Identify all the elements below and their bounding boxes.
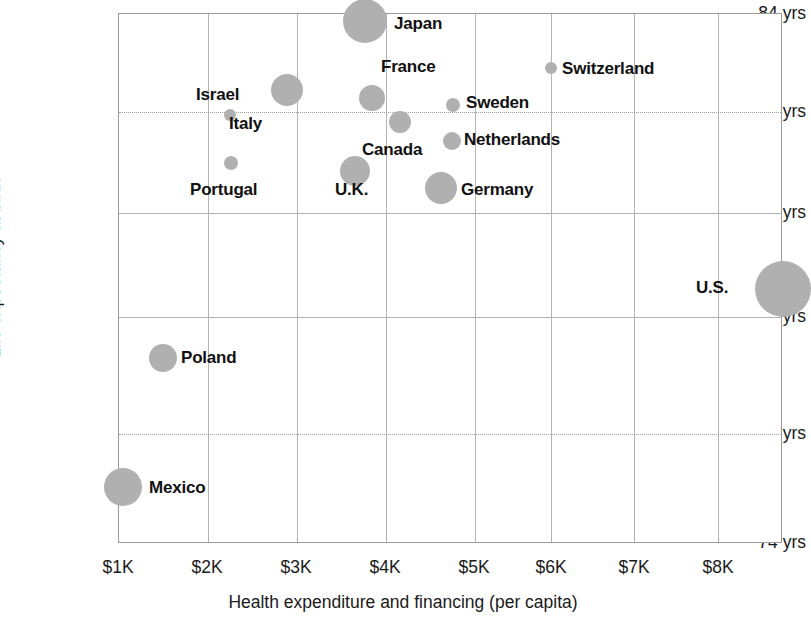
- x-tick-label: $4K: [369, 557, 400, 578]
- x-tick-label: $6K: [535, 557, 566, 578]
- x-tick-label: $3K: [280, 557, 311, 578]
- gridline-horizontal: [119, 317, 781, 318]
- x-tick-label: $8K: [702, 557, 733, 578]
- point-label-germany: Germany: [461, 180, 533, 200]
- x-tick-label: $5K: [458, 557, 489, 578]
- point-label-netherlands: Netherlands: [464, 130, 560, 150]
- bubble-switzerland[interactable]: [545, 62, 557, 74]
- bubble-france[interactable]: [359, 85, 385, 111]
- gridline-horizontal: [119, 434, 781, 435]
- y-axis-title: Life expectancy at birth: [0, 178, 5, 358]
- bubble-germany[interactable]: [425, 172, 457, 204]
- gridline-vertical: [551, 14, 552, 542]
- gridline-vertical: [386, 14, 387, 542]
- bubble-poland[interactable]: [149, 344, 177, 372]
- point-label-portugal: Portugal: [190, 180, 257, 200]
- x-tick-label: $2K: [191, 557, 222, 578]
- point-label-canada: Canada: [362, 140, 422, 160]
- point-label-mexico: Mexico: [149, 478, 205, 498]
- bubble-us[interactable]: [755, 261, 811, 317]
- gridline-horizontal: [119, 112, 781, 113]
- bubble-mexico[interactable]: [104, 468, 142, 506]
- bubble-portugal[interactable]: [224, 156, 238, 170]
- bubble-netherlands[interactable]: [443, 132, 461, 150]
- bubble-sweden[interactable]: [446, 98, 460, 112]
- point-label-uk: U.K.: [335, 180, 368, 200]
- bubble-italy[interactable]: [271, 74, 303, 106]
- point-label-poland: Poland: [181, 348, 236, 368]
- point-label-switzerland: Switzerland: [562, 59, 654, 79]
- gridline-vertical: [634, 14, 635, 542]
- bubble-japan[interactable]: [343, 0, 387, 43]
- point-label-france: France: [381, 57, 436, 77]
- point-label-italy: Italy: [229, 114, 262, 134]
- point-label-israel: Israel: [196, 85, 239, 105]
- point-label-sweden: Sweden: [466, 93, 529, 113]
- point-label-japan: Japan: [394, 14, 442, 34]
- bubble-canada[interactable]: [389, 111, 411, 133]
- x-axis-title: Health expenditure and financing (per ca…: [0, 592, 806, 613]
- gridline-horizontal: [119, 213, 781, 214]
- x-tick-label: $1K: [102, 557, 133, 578]
- x-tick-label: $7K: [618, 557, 649, 578]
- point-label-us: U.S.: [696, 278, 728, 298]
